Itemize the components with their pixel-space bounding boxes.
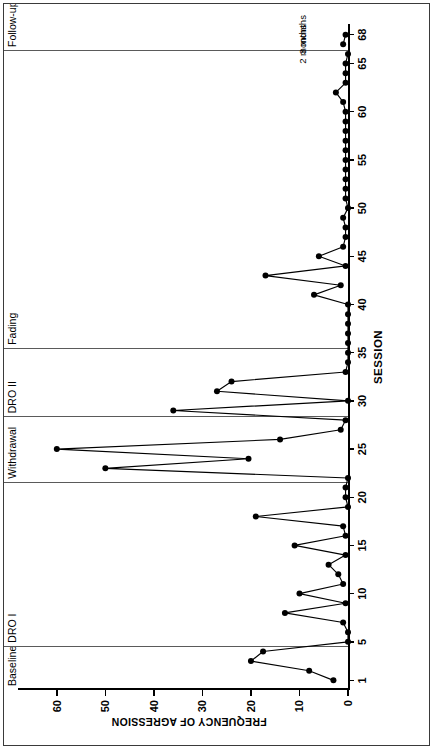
data-point bbox=[335, 571, 341, 577]
data-point bbox=[343, 369, 349, 375]
data-point bbox=[246, 456, 252, 462]
data-point bbox=[340, 215, 346, 221]
data-point bbox=[343, 186, 349, 192]
data-point bbox=[345, 475, 351, 481]
chart-canvas: 1510152025303540455055606568 01020304050… bbox=[4, 4, 431, 747]
data-point bbox=[343, 494, 349, 500]
data-point bbox=[306, 668, 312, 674]
data-point bbox=[260, 648, 266, 654]
data-point bbox=[326, 562, 332, 568]
data-point bbox=[345, 330, 351, 336]
data-point bbox=[343, 70, 349, 76]
data-point bbox=[345, 321, 351, 327]
data-point bbox=[345, 398, 351, 404]
x-axis-title: SESSION bbox=[372, 24, 384, 690]
data-series-layer bbox=[4, 4, 431, 747]
data-point bbox=[343, 167, 349, 173]
data-point bbox=[330, 677, 336, 683]
data-point bbox=[343, 552, 349, 558]
data-point bbox=[229, 379, 235, 385]
data-point bbox=[343, 195, 349, 201]
data-point bbox=[345, 301, 351, 307]
data-point bbox=[343, 234, 349, 240]
data-point bbox=[343, 128, 349, 134]
data-point bbox=[343, 157, 349, 163]
data-point bbox=[340, 244, 346, 250]
data-point bbox=[338, 282, 344, 288]
data-point bbox=[345, 340, 351, 346]
data-point bbox=[170, 408, 176, 414]
data-point bbox=[345, 629, 351, 635]
data-point bbox=[345, 51, 351, 57]
annotation-label: 3 months bbox=[296, 15, 307, 54]
data-point bbox=[102, 465, 108, 471]
data-point bbox=[333, 89, 339, 95]
rotated-figure-wrapper: 1510152025303540455055606568 01020304050… bbox=[4, 4, 431, 747]
data-point bbox=[311, 292, 317, 298]
data-point bbox=[338, 427, 344, 433]
data-point bbox=[345, 504, 351, 510]
data-point bbox=[340, 99, 346, 105]
data-point bbox=[296, 591, 302, 597]
figure-frame: 1510152025303540455055606568 01020304050… bbox=[3, 3, 430, 746]
data-point bbox=[343, 109, 349, 115]
data-point bbox=[343, 147, 349, 153]
data-point bbox=[343, 80, 349, 86]
data-point bbox=[343, 263, 349, 269]
data-point bbox=[343, 533, 349, 539]
data-point bbox=[343, 600, 349, 606]
data-point bbox=[343, 32, 349, 38]
data-point bbox=[343, 118, 349, 124]
data-point bbox=[282, 610, 288, 616]
data-point bbox=[345, 311, 351, 317]
data-point bbox=[340, 41, 346, 47]
data-point bbox=[54, 446, 60, 452]
data-point bbox=[248, 658, 254, 664]
series-line bbox=[57, 54, 348, 680]
data-point bbox=[214, 388, 220, 394]
y-axis-title: FREQUENCY OF AGRESSION bbox=[24, 716, 354, 728]
data-point bbox=[345, 359, 351, 365]
data-point bbox=[292, 542, 298, 548]
data-point bbox=[345, 350, 351, 356]
data-point bbox=[343, 224, 349, 230]
data-point bbox=[263, 273, 269, 279]
data-point bbox=[343, 176, 349, 182]
data-point bbox=[316, 253, 322, 259]
data-point bbox=[343, 61, 349, 67]
data-point bbox=[340, 581, 346, 587]
data-point bbox=[340, 620, 346, 626]
data-point bbox=[345, 205, 351, 211]
data-point bbox=[343, 417, 349, 423]
data-point bbox=[340, 523, 346, 529]
data-point bbox=[345, 639, 351, 645]
data-point bbox=[343, 138, 349, 144]
data-point bbox=[253, 514, 259, 520]
data-point bbox=[277, 436, 283, 442]
data-point bbox=[343, 485, 349, 491]
